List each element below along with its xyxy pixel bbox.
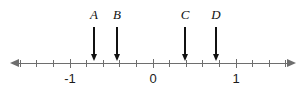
axis-tick-label: 0 — [149, 71, 156, 86]
axis-arrowhead-right-icon — [287, 59, 296, 67]
pointer-shaft — [184, 27, 186, 55]
axis-tick-label: 1 — [232, 71, 239, 86]
pointer-arrowhead-icon — [182, 54, 188, 61]
axis-tick-minor — [202, 60, 203, 67]
axis-tick-major — [153, 59, 154, 68]
pointer-shaft — [93, 27, 95, 55]
pointer-arrowhead-icon — [114, 54, 120, 61]
axis-tick-minor — [36, 60, 37, 67]
axis-tick-minor — [20, 60, 21, 67]
pointer-arrow-a — [90, 27, 98, 61]
pointer-label-c: C — [181, 7, 190, 23]
pointer-arrowhead-icon — [213, 54, 219, 61]
axis-tick-minor — [103, 60, 104, 67]
axis-arrowhead-left-icon — [10, 59, 19, 67]
axis-tick-minor — [169, 60, 170, 67]
axis-tick-label: -1 — [64, 71, 76, 86]
pointer-arrow-b — [113, 27, 121, 61]
axis-tick-minor — [186, 60, 187, 67]
axis-tick-minor — [86, 60, 87, 67]
pointer-arrow-d — [212, 27, 220, 61]
pointer-shaft — [116, 27, 118, 55]
pointer-label-b: B — [113, 7, 121, 23]
axis-tick-minor — [285, 60, 286, 67]
pointer-label-a: A — [90, 7, 98, 23]
axis-tick-minor — [53, 60, 54, 67]
pointer-shaft — [215, 27, 217, 55]
axis-tick-major — [236, 59, 237, 68]
pointer-label-d: D — [211, 7, 220, 23]
axis-tick-minor — [269, 60, 270, 67]
axis-tick-minor — [119, 60, 120, 67]
axis-tick-minor — [136, 60, 137, 67]
number-line-figure: -101 ABCD — [0, 0, 306, 91]
pointer-arrowhead-icon — [91, 54, 97, 61]
axis-tick-minor — [219, 60, 220, 67]
pointer-arrow-c — [181, 27, 189, 61]
axis-tick-minor — [252, 60, 253, 67]
axis-tick-major — [70, 59, 71, 68]
